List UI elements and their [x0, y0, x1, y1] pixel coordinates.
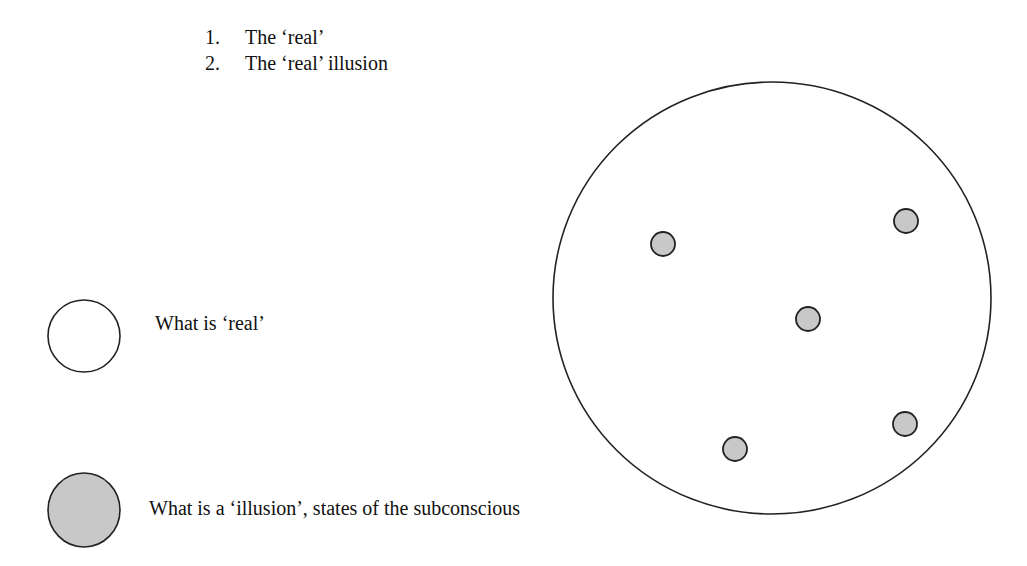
legend-illusion-label: What is a ‘illusion’, states of the subc…	[149, 497, 520, 520]
illusion-dot	[723, 437, 747, 461]
legend-real-label: What is ‘real’	[155, 312, 265, 335]
illusion-dot	[796, 307, 820, 331]
illusion-dot	[651, 232, 675, 256]
diagram-canvas	[0, 0, 1027, 566]
illusion-dot	[894, 209, 918, 233]
illusion-dot	[893, 412, 917, 436]
legend-real-symbol	[48, 300, 120, 372]
legend-illusion-symbol	[48, 473, 120, 547]
real-circle	[553, 82, 991, 514]
